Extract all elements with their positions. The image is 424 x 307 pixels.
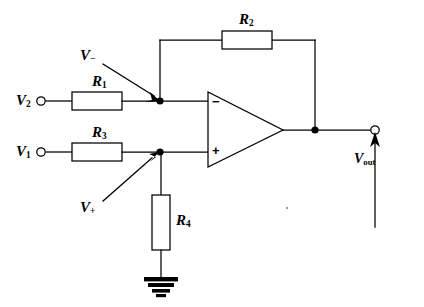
terminal-v1-circle xyxy=(37,148,45,156)
resistor-r4-body xyxy=(152,195,170,250)
annotation-arrow-vplus-shaft xyxy=(103,158,152,201)
ground-bar-4 xyxy=(156,294,166,297)
terminal-v1-label: V1 xyxy=(16,144,31,160)
terminal-v2-circle xyxy=(37,97,45,105)
ground-bar-2 xyxy=(148,283,174,287)
resistor-r3-label: R3 xyxy=(92,125,107,141)
scan-artifact-speck xyxy=(286,207,288,209)
node-vplus-label: V+ xyxy=(80,200,95,216)
resistor-r1-body xyxy=(72,92,122,110)
resistor-r2-label: R2 xyxy=(239,12,254,28)
junction-node-noninverting xyxy=(156,148,163,155)
resistor-r4-label: R4 xyxy=(176,213,191,229)
annotation-arrow-vminus-shaft xyxy=(103,64,154,96)
terminal-v2-label: V2 xyxy=(16,93,31,109)
terminal-vout-label: Vout xyxy=(354,152,375,166)
ground-bar-3 xyxy=(152,289,170,293)
node-vminus-label: V− xyxy=(80,48,95,64)
junction-node-inverting xyxy=(156,97,163,104)
ground-symbol xyxy=(144,277,178,297)
resistor-r3-body xyxy=(72,143,122,161)
opamp-noninverting-input-sign: + xyxy=(212,144,220,157)
resistor-r2-body xyxy=(222,31,272,49)
circuit-diagram-canvas: R2 R1 R3 R4 V2 V1 V− V+ Vout − + xyxy=(0,0,424,307)
junction-node-output xyxy=(311,126,318,133)
resistor-r1-label: R1 xyxy=(92,74,107,90)
opamp-inverting-input-sign: − xyxy=(212,95,220,108)
